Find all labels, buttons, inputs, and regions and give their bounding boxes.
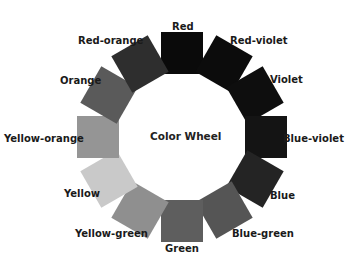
color-label-blue-green: Blue-green: [232, 228, 294, 239]
color-label-blue: Blue: [270, 190, 295, 201]
color-swatch-green: [161, 200, 203, 242]
color-label-blue-violet: Blue-violet: [283, 133, 344, 144]
color-label-yellow-green: Yellow-green: [75, 228, 148, 239]
color-label-yellow: Yellow: [64, 188, 100, 199]
color-label-red-orange: Red-orange: [78, 35, 143, 46]
color-label-green: Green: [165, 243, 199, 254]
color-label-orange: Orange: [60, 75, 101, 86]
color-label-yellow-orange: Yellow-orange: [4, 133, 84, 144]
color-label-red: Red: [172, 21, 194, 32]
color-label-violet: Violet: [270, 74, 303, 85]
diagram-title: Color Wheel: [150, 130, 221, 142]
color-label-red-violet: Red-violet: [230, 35, 288, 46]
